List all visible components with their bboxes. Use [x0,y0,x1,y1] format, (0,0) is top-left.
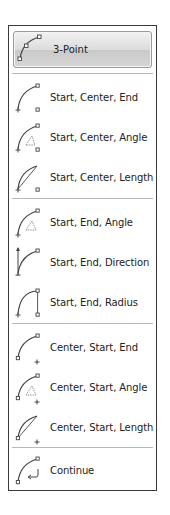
arc-start-center-length-item[interactable]: Start, Center, Length [12,157,154,197]
arc-3point-button[interactable]: 3-Point [13,31,152,68]
menu-divider [12,73,153,74]
arc-3point-icon [14,30,48,70]
item-label: Center, Start, End [50,342,138,353]
menu-divider [12,323,153,324]
item-label: Start, Center, End [50,92,138,103]
item-label: Start, Center, Angle [50,132,147,143]
item-label: Continue [50,465,94,476]
arc-start-end-radius-icon [12,282,46,322]
arc-start-center-end-icon [12,77,46,117]
arc-continue-icon [12,450,46,490]
item-label: Start, Center, Length [50,172,153,183]
arc-center-start-angle-item[interactable]: Center, Start, Angle [12,367,154,407]
item-label: Start, End, Radius [50,297,138,308]
arc-center-start-length-icon [12,407,46,447]
arc-3point-label: 3-Point [53,44,88,55]
arc-center-start-angle-icon [12,367,46,407]
arc-start-end-angle-item[interactable]: Start, End, Angle [12,202,154,242]
arc-start-end-direction-icon [12,242,46,282]
item-label: Start, End, Angle [50,217,133,228]
arc-center-start-end-item[interactable]: Center, Start, End [12,327,154,367]
arc-center-start-length-item[interactable]: Center, Start, Length [12,407,154,447]
arc-continue-item[interactable]: Continue [12,450,154,490]
arc-start-center-angle-icon [12,117,46,157]
item-label: Center, Start, Angle [50,382,147,393]
arc-start-end-direction-item[interactable]: Start, End, Direction [12,242,154,282]
arc-start-center-length-icon [12,157,46,197]
arc-start-center-end-item[interactable]: Start, Center, End [12,77,154,117]
menu-divider [12,198,153,199]
arc-start-end-angle-icon [12,202,46,242]
item-label: Start, End, Direction [50,257,149,268]
menu-divider [12,447,153,448]
item-label: Center, Start, Length [50,422,153,433]
arc-start-center-angle-item[interactable]: Start, Center, Angle [12,117,154,157]
arc-start-end-radius-item[interactable]: Start, End, Radius [12,282,154,322]
arc-center-start-end-icon [12,327,46,367]
arc-dropdown-menu: 3-Point Start, Center, End Start, Center… [8,25,157,491]
